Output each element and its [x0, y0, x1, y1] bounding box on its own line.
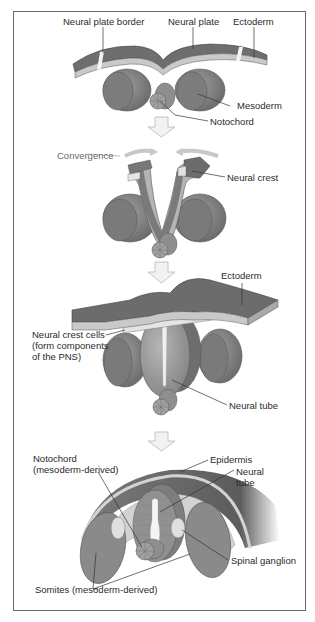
label-spinal-ganglion: Spinal ganglion	[231, 555, 296, 566]
spinal-ganglion-right	[171, 518, 185, 538]
down-arrow-3	[148, 432, 175, 451]
label-notochord-1: Notochord	[210, 116, 254, 127]
label-neural-crest: Neural crest	[227, 172, 278, 183]
label-mesoderm: Mesoderm	[237, 100, 282, 111]
spinal-ganglion-left	[111, 517, 125, 539]
down-arrow-1	[148, 117, 175, 137]
label-neural-crest-cells: Neural crest cells (form components of t…	[32, 329, 118, 362]
neural-crest-block	[184, 157, 210, 178]
label-somites: Somites (mesoderm-derived)	[35, 584, 157, 595]
label-neural-plate-border: Neural plate border	[63, 16, 144, 27]
down-arrow-2	[148, 262, 175, 283]
label-neural-tube-4: Neural tube	[236, 466, 276, 488]
stage-2-neural-folds	[87, 148, 226, 258]
label-neural-plate: Neural plate	[168, 16, 219, 27]
label-ectoderm-3: Ectoderm	[221, 270, 262, 281]
label-epidermis: Epidermis	[210, 454, 252, 465]
label-convergence: Convergence	[57, 150, 114, 161]
label-notochord-4: Notochord (mesoderm-derived)	[33, 453, 123, 475]
label-ectoderm-1: Ectoderm	[233, 16, 274, 27]
neurulation-diagram	[0, 0, 315, 622]
label-neural-tube-3: Neural tube	[229, 400, 278, 411]
